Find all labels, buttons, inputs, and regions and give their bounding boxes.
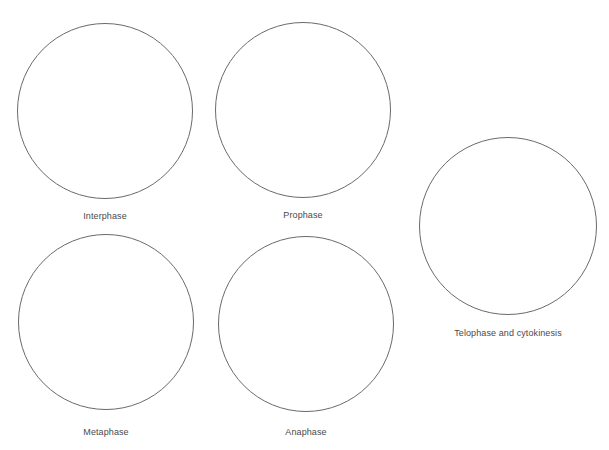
interphase-circle [17, 23, 193, 199]
prophase-circle [215, 22, 391, 198]
interphase-label: Interphase [83, 211, 127, 221]
metaphase-label: Metaphase [83, 427, 128, 437]
anaphase-circle [218, 236, 394, 412]
anaphase-label: Anaphase [285, 427, 326, 437]
telophase-circle [419, 137, 597, 315]
telophase-label: Telophase and cytokinesis [454, 328, 562, 338]
cell-cycle-diagram: Interphase Prophase Telophase and cytoki… [0, 0, 609, 450]
prophase-label: Prophase [283, 210, 322, 220]
metaphase-circle [18, 234, 194, 410]
